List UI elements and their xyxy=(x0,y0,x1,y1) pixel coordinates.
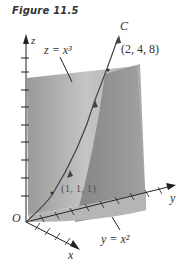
x-axis-label: x xyxy=(68,249,73,261)
point-mid-label: (1, 1, 1) xyxy=(61,183,96,194)
point-1-1-1 xyxy=(51,192,54,195)
point-end-label: (2, 4, 8) xyxy=(121,43,159,55)
surface-z-label: z = x³ xyxy=(44,44,72,56)
curve-label: C xyxy=(120,20,128,32)
y-axis-label: y xyxy=(170,192,175,204)
surface-y-label: y = x² xyxy=(101,233,129,245)
point-2-4-8 xyxy=(107,69,110,72)
x-axis xyxy=(26,222,80,250)
origin-label: O xyxy=(12,212,21,224)
3d-surface-diagram xyxy=(0,0,189,267)
z-axis-label: z xyxy=(31,35,35,46)
